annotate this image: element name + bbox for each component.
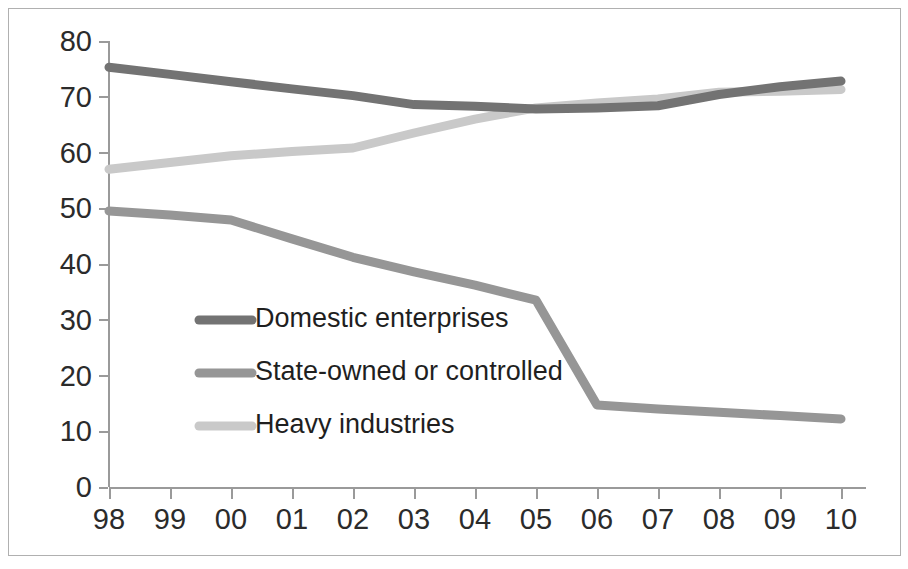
- x-tick-label: 98: [93, 503, 125, 535]
- y-tick-label: 40: [60, 248, 92, 280]
- x-tick-label: 05: [520, 503, 552, 535]
- x-tick-label: 06: [581, 503, 613, 535]
- x-tick-label: 08: [703, 503, 735, 535]
- y-tick-label: 70: [60, 81, 92, 113]
- y-axis-ticks: [99, 42, 108, 488]
- x-axis-ticks: [110, 488, 842, 499]
- chart-legend: Domestic enterprisesState-owned or contr…: [199, 303, 563, 439]
- line-chart: 01020304050607080 9899000102030405060708…: [0, 0, 908, 569]
- x-tick-label: 03: [398, 503, 430, 535]
- y-tick-label: 80: [60, 25, 92, 57]
- x-tick-label: 00: [215, 503, 247, 535]
- legend-label: Domestic enterprises: [255, 303, 509, 333]
- legend-label: State-owned or controlled: [255, 356, 563, 386]
- y-tick-label: 10: [60, 415, 92, 447]
- legend-label: Heavy industries: [255, 409, 455, 439]
- y-tick-label: 20: [60, 360, 92, 392]
- y-tick-label: 0: [76, 471, 92, 503]
- x-tick-label: 04: [459, 503, 491, 535]
- x-tick-label: 09: [764, 503, 796, 535]
- x-tick-label: 10: [825, 503, 857, 535]
- x-tick-label: 02: [337, 503, 369, 535]
- x-tick-label: 07: [642, 503, 674, 535]
- y-tick-label: 60: [60, 137, 92, 169]
- x-tick-label: 01: [276, 503, 308, 535]
- x-axis-tick-labels: 98990001020304050607080910: [93, 503, 857, 535]
- x-tick-label: 99: [154, 503, 186, 535]
- y-axis-tick-labels: 01020304050607080: [60, 25, 92, 503]
- y-tick-label: 50: [60, 192, 92, 224]
- series-line-heavy-industries: [109, 90, 841, 170]
- chart-root: 01020304050607080 9899000102030405060708…: [0, 0, 908, 569]
- y-tick-label: 30: [60, 304, 92, 336]
